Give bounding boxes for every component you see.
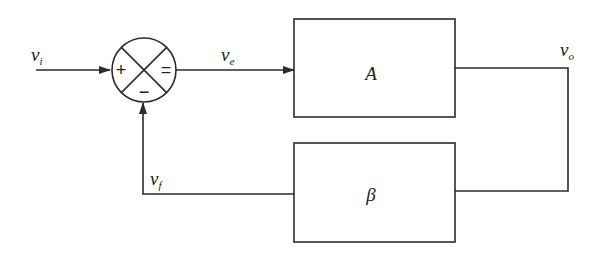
input-signal-label: vi (31, 44, 43, 67)
plus-sign: + (116, 60, 127, 80)
forward-gain-label: A (363, 63, 377, 84)
forward-gain-block: A (294, 19, 455, 117)
output-signal-label: vo (560, 39, 574, 62)
feedback-signal-line (143, 103, 294, 194)
feedback-network-block: β (294, 143, 455, 242)
feedback-amplifier-diagram: vi + = − ve A vo β vf (0, 0, 603, 256)
feedback-signal-label: vf (150, 168, 163, 191)
feedback-factor-label: β (365, 184, 376, 205)
equals-sign: = (161, 60, 172, 80)
error-signal-label: ve (221, 44, 234, 67)
minus-sign: − (139, 82, 150, 102)
summing-junction: + = − (112, 38, 176, 102)
output-signal-line (455, 68, 568, 191)
